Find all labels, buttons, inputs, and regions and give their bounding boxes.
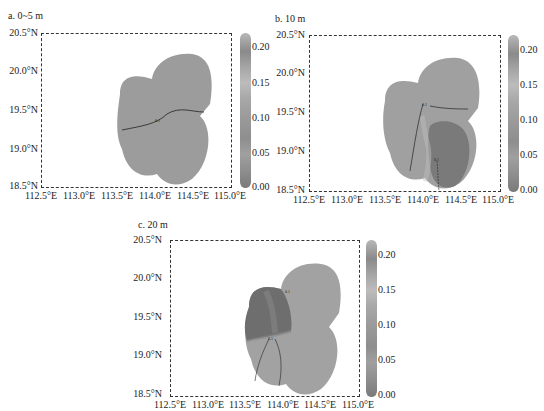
y-tick: 20.5°N: [265, 29, 305, 40]
panel-title: c. 20 m: [138, 219, 168, 230]
colorbar-tick: 0.10: [378, 319, 396, 330]
colorbar-tick: 0.05: [520, 149, 538, 160]
x-tick: 113.5°E: [229, 399, 261, 410]
x-tick: 115.0°E: [482, 194, 514, 205]
x-tick: 113.5°E: [369, 194, 401, 205]
colorbar-tick: 0.20: [378, 249, 396, 260]
plot-area: 0.1: [41, 33, 232, 188]
y-tick: 20.0°N: [265, 67, 305, 78]
y-tick: 19.0°N: [122, 349, 162, 360]
x-tick: 114.5°E: [445, 194, 477, 205]
colorbar: [366, 240, 377, 397]
contour-map: 0.1 0.1: [171, 241, 359, 396]
colorbar-tick: 0.10: [520, 114, 538, 125]
x-tick: 113.0°E: [63, 190, 95, 201]
y-tick: 20.5°N: [122, 234, 162, 245]
x-tick: 114.5°E: [304, 399, 336, 410]
y-tick: 20.0°N: [0, 65, 38, 76]
x-tick: 112.5°E: [154, 399, 186, 410]
y-tick: 19.0°N: [0, 143, 38, 154]
plot-area: 0.1 0.1: [309, 35, 501, 192]
colorbar-tick: 0.15: [520, 79, 538, 90]
contour-label: 0.1: [155, 118, 160, 123]
panel-title: b. 10 m: [275, 13, 305, 24]
contour-map: 0.1: [42, 34, 231, 187]
x-tick: 112.5°E: [293, 194, 325, 205]
y-tick: 19.5°N: [265, 106, 305, 117]
colorbar-tick: 0.15: [378, 284, 396, 295]
colorbar-tick: 0.20: [252, 41, 270, 52]
panel-b: b. 10 m 0.1 0.1 20.5°N 20.0°N 19.5°N 19.…: [272, 0, 544, 205]
x-tick: 114.0°E: [139, 190, 171, 201]
x-tick: 115.0°E: [342, 399, 374, 410]
y-tick: 20.5°N: [0, 27, 38, 38]
panel-title: a. 0~5 m: [8, 10, 43, 21]
colorbar-tick: 0.20: [520, 44, 538, 55]
colorbar-tick: 0.00: [520, 184, 538, 195]
contour-label: 0.1: [434, 157, 439, 162]
colorbar-tick: 0.00: [378, 389, 396, 400]
x-tick: 114.0°E: [267, 399, 299, 410]
colorbar-tick: 0.05: [378, 354, 396, 365]
x-tick: 114.0°E: [407, 194, 439, 205]
colorbar: [240, 33, 251, 188]
contour-label: 0.1: [285, 289, 290, 294]
y-tick: 19.5°N: [0, 104, 38, 115]
panel-c: c. 20 m 0.1 0.1 20.5°N 20.0°N 19.5°N 19.…: [130, 205, 420, 411]
contour-map: 0.1 0.1: [310, 36, 500, 191]
panel-a: a. 0~5 m 0.1 20.5°N 20.0°N 19.5°N 19.0°N…: [0, 0, 272, 205]
y-tick: 19.5°N: [122, 311, 162, 322]
x-tick: 112.5°E: [25, 190, 57, 201]
colorbar-tick: 0.15: [252, 77, 270, 88]
plot-area: 0.1 0.1: [170, 240, 360, 397]
y-tick: 19.0°N: [265, 145, 305, 156]
x-tick: 115.0°E: [214, 190, 246, 201]
y-tick: 18.5°N: [122, 388, 162, 399]
x-tick: 114.5°E: [177, 190, 209, 201]
contour-label: 0.1: [268, 336, 273, 341]
x-tick: 113.5°E: [101, 190, 133, 201]
x-tick: 113.0°E: [192, 399, 224, 410]
colorbar: [508, 35, 519, 192]
contour-label: 0.1: [422, 102, 427, 107]
x-tick: 113.0°E: [331, 194, 363, 205]
y-tick: 20.0°N: [122, 272, 162, 283]
